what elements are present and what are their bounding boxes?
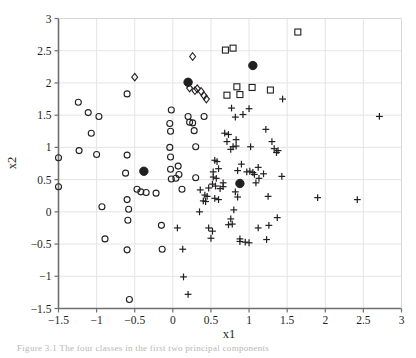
data-point-circle-class	[179, 186, 185, 192]
series-centroid	[140, 61, 257, 187]
data-point-centroid	[236, 179, 244, 187]
data-point-centroid	[140, 167, 148, 175]
x-axis-title: x1	[223, 327, 236, 341]
y-tick-label: 2	[46, 77, 52, 89]
scatter-plot: −1.5−1−0.500.511.522.53 −1.5−1−0.500.511…	[0, 0, 416, 358]
y-tick-label: −1.5	[31, 303, 52, 315]
axis-ticks	[55, 19, 402, 313]
data-point-plus-class	[279, 96, 286, 103]
data-point-plus-class	[240, 111, 247, 118]
data-point-circle-class	[185, 113, 191, 119]
figure-container: −1.5−1−0.500.511.522.53 −1.5−1−0.500.511…	[0, 0, 416, 358]
data-point-plus-class	[209, 228, 216, 235]
x-tick-label: 1.5	[280, 314, 295, 326]
data-point-plus-class	[255, 164, 262, 171]
x-tick-label: −1	[90, 314, 102, 326]
data-point-circle-class	[175, 163, 181, 169]
data-point-diamond-class	[190, 53, 196, 61]
data-point-square-class	[249, 84, 255, 90]
data-point-plus-class	[225, 131, 232, 138]
y-tick-label: 2.5	[37, 45, 52, 57]
data-point-circle-class	[124, 247, 130, 253]
data-point-plus-class	[247, 143, 254, 150]
data-point-square-class	[295, 29, 301, 35]
data-point-plus-class	[180, 274, 187, 281]
data-point-circle-class	[124, 152, 130, 158]
data-point-plus-class	[255, 225, 262, 232]
data-point-plus-class	[314, 194, 321, 201]
data-point-circle-class	[75, 99, 81, 105]
y-tick-label: −1	[39, 270, 51, 282]
data-point-plus-class	[225, 221, 232, 228]
data-point-centroid	[184, 78, 192, 86]
data-point-plus-class	[246, 105, 253, 112]
data-point-plus-class	[196, 208, 203, 215]
x-axis-tick-labels: −1.5−1−0.500.511.522.53	[48, 314, 405, 326]
data-point-circle-class	[153, 190, 159, 196]
series-diamond-class	[132, 53, 210, 103]
data-point-plus-class	[185, 291, 192, 298]
data-point-plus-class	[197, 187, 204, 194]
x-tick-label: 3	[399, 314, 405, 326]
data-point-plus-class	[238, 161, 245, 168]
data-point-plus-class	[211, 195, 218, 202]
data-point-plus-class	[262, 126, 269, 133]
x-tick-label: 0	[170, 314, 176, 326]
data-point-plus-class	[265, 193, 272, 200]
data-point-plus-class	[256, 175, 263, 182]
data-point-circle-class	[76, 148, 82, 154]
series-square-class	[222, 29, 300, 98]
y-tick-label: −0.5	[31, 238, 52, 250]
data-point-plus-class	[246, 239, 253, 246]
data-point-circle-class	[123, 170, 129, 176]
series-circle-class	[56, 91, 208, 303]
x-tick-label: −0.5	[124, 314, 145, 326]
data-point-plus-class	[228, 105, 235, 112]
figure-caption: Figure 3.1 The four classes in the first…	[17, 343, 407, 354]
data-point-plus-class	[179, 246, 186, 253]
data-point-circle-class	[191, 128, 197, 134]
y-tick-label: 1	[46, 141, 52, 153]
data-point-circle-class	[102, 236, 108, 242]
y-tick-label: 0.5	[37, 174, 52, 186]
y-axis-tick-labels: −1.5−1−0.500.511.522.53	[31, 13, 52, 315]
data-point-plus-class	[229, 221, 236, 228]
y-tick-label: 3	[46, 13, 52, 25]
data-point-plus-class	[233, 143, 240, 150]
x-tick-label: 2.5	[356, 314, 371, 326]
axis-frame	[59, 19, 402, 309]
data-point-square-class	[267, 87, 273, 93]
data-point-square-class	[234, 84, 240, 90]
y-tick-label: 1.5	[37, 109, 52, 121]
data-point-square-class	[237, 92, 243, 98]
y-axis-title: x2	[5, 157, 19, 170]
data-point-plus-class	[215, 196, 222, 203]
data-point-circle-class	[124, 197, 130, 203]
data-point-circle-class	[167, 121, 173, 127]
y-tick-label: 0	[46, 206, 52, 218]
series-plus-class	[174, 96, 383, 298]
data-point-plus-class	[246, 168, 253, 175]
data-point-plus-class	[278, 173, 285, 180]
data-point-plus-class	[208, 235, 215, 242]
data-point-plus-class	[253, 179, 260, 186]
data-point-plus-class	[213, 175, 220, 182]
data-point-circle-class	[88, 130, 94, 136]
x-tick-label: 2	[322, 314, 328, 326]
data-point-plus-class	[376, 113, 383, 120]
data-point-plus-class	[227, 216, 234, 223]
data-point-circle-class	[193, 144, 199, 150]
data-point-plus-class	[233, 136, 240, 143]
data-point-plus-class	[263, 236, 270, 243]
x-tick-label: 1	[246, 314, 252, 326]
data-point-plus-class	[215, 165, 222, 172]
data-point-plus-class	[234, 167, 241, 174]
data-point-plus-class	[354, 196, 361, 203]
x-tick-label: 0.5	[204, 314, 219, 326]
data-point-circle-class	[126, 296, 132, 302]
data-point-plus-class	[265, 222, 272, 229]
data-point-circle-class	[168, 107, 174, 113]
data-point-plus-class	[224, 138, 231, 145]
x-tick-label: −1.5	[48, 314, 69, 326]
data-point-circle-class	[158, 222, 164, 228]
